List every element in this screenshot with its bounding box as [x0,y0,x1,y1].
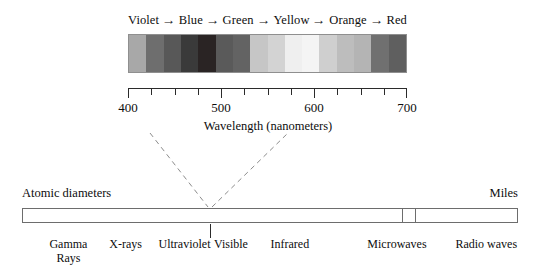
connector-line-right [212,133,288,207]
axis-tick-575 [291,88,292,95]
color-name-blue: Blue [179,13,203,28]
em-spectrum-bar [22,208,518,223]
em-band-label-microwaves: Microwaves [367,238,426,252]
axis-tick-500 [221,88,222,98]
axis-label-500: 500 [211,100,231,116]
spectrum-band-orange-red [354,35,371,72]
wavelength-axis-title: Wavelength (nanometers) [0,119,536,134]
visible-band-leader-line [210,224,211,238]
spectrum-band-blue [181,35,198,72]
visible-spectrum-bar [128,34,407,73]
spectrum-band-violet [146,35,163,72]
em-band-label-visible: Visible [214,238,248,252]
spectrum-band-violet-blue [164,35,181,72]
em-caption-left: Atomic diameters [22,186,111,201]
axis-tick-475 [198,88,199,95]
em-band-label-ultraviolet: Ultraviolet [158,238,210,252]
spectrum-band-red-deep [389,35,406,72]
spectrum-band-violet-far [129,35,146,72]
connector-line-left [150,133,208,207]
color-name-violet: Violet [128,13,159,28]
em-band-label-radio-waves: Radio waves [455,238,517,252]
spectrum-band-blue-green [216,35,233,72]
color-name-red: Red [386,13,406,28]
em-caption-right: Miles [490,186,518,201]
em-band-label-row: GammaRaysX-raysUltravioletVisibleInfrare… [0,238,536,272]
axis-label-400: 400 [118,100,138,116]
axis-tick-650 [361,88,362,95]
spectrum-band-blue-deep [198,35,215,72]
axis-tick-525 [244,88,245,95]
em-band-label-infrared: Infrared [271,238,310,252]
axis-tick-550 [268,88,269,95]
arrow-right-icon: → [311,14,327,26]
spectrum-band-red [371,35,388,72]
spectrum-band-yellow [285,35,302,72]
wavelength-axis-tick-labels: 400500600700 [0,100,536,116]
spectrum-band-green [233,35,250,72]
spectrum-band-yellow-green [268,35,285,72]
color-name-orange: Orange [329,13,366,28]
color-name-green: Green [223,13,254,28]
em-band-label-gamma: GammaRays [49,238,87,265]
axis-tick-400 [128,88,129,98]
spectrum-band-orange-light [319,35,336,72]
em-band-label-x-rays: X-rays [109,238,142,252]
axis-tick-700 [406,88,407,98]
arrow-right-icon: → [161,14,177,26]
visible-color-name-row: Violet → Blue → Green → Yellow → Orange … [128,11,407,29]
axis-label-700: 700 [397,100,417,116]
axis-tick-425 [151,88,152,95]
axis-tick-675 [384,88,385,95]
arrow-right-icon: → [369,14,385,26]
wavelength-axis-title-text: Wavelength (nanometers) [204,119,332,133]
spectrum-band-yellow-pale [302,35,319,72]
axis-tick-625 [337,88,338,95]
electromagnetic-spectrum-figure: Violet → Blue → Green → Yellow → Orange … [0,0,536,277]
arrow-right-icon: → [205,14,221,26]
axis-label-600: 600 [304,100,324,116]
em-divider-visible-slot-start [402,209,403,222]
axis-tick-450 [175,88,176,95]
wavelength-axis [128,88,407,99]
arrow-right-icon: → [255,14,271,26]
spectrum-band-green-light [250,35,267,72]
em-divider-visible-slot-end [415,209,416,222]
axis-tick-600 [314,88,315,98]
color-name-yellow: Yellow [273,13,309,28]
spectrum-band-orange [337,35,354,72]
